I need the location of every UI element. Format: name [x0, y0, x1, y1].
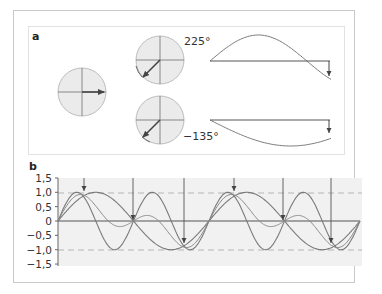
angle-label-minus135: −135° [183, 130, 219, 143]
figure-graphics: 225° −135° 1,51,00,50−0,5−1,0−1,5 [0, 0, 382, 294]
angle-label-225: 225° [184, 35, 211, 48]
phasor-circle-225 [136, 36, 184, 84]
y-tick-label: 0 [45, 215, 52, 227]
phasor-circle-minus135 [136, 96, 184, 144]
y-tick-label: 1,0 [35, 186, 52, 198]
y-tick-label: 1,5 [35, 172, 52, 184]
y-tick-label: 0,5 [35, 201, 52, 213]
waveform-225 [210, 35, 331, 79]
y-tick-label: −1,5 [27, 258, 53, 270]
y-tick-label: −0,5 [27, 229, 53, 241]
phasor-circle-reference [58, 68, 106, 116]
y-tick-label: −1,0 [27, 244, 53, 256]
chart-panel-b [55, 178, 362, 266]
plot-background [58, 178, 362, 266]
waveform-minus135 [210, 120, 331, 146]
